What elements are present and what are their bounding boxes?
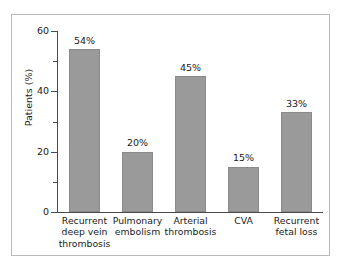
- y-axis-tick-major: [51, 91, 57, 92]
- x-axis-label-line: fetal loss: [262, 226, 331, 237]
- bar-value-label: 15%: [216, 153, 271, 163]
- y-axis-tick-minor: [53, 122, 57, 123]
- y-axis-tick-label: 20: [19, 147, 49, 157]
- x-axis-category-label: Recurrentfetal loss: [262, 215, 331, 238]
- y-axis-tick-major: [51, 152, 57, 153]
- bar[interactable]: [122, 152, 153, 212]
- bar-value-label: 20%: [110, 138, 165, 148]
- bar-slot: 45%: [175, 31, 206, 212]
- y-axis-tick-label: 60: [19, 26, 49, 36]
- y-axis-tick-labels: 0204060: [12, 15, 49, 255]
- y-axis-tick-major: [51, 31, 57, 32]
- bar[interactable]: [69, 49, 100, 212]
- bar-slot: 33%: [281, 31, 312, 212]
- bar-value-label: 45%: [163, 63, 218, 73]
- y-axis-tick-major: [51, 212, 57, 213]
- bar-series: 54%20%45%15%33%: [58, 31, 323, 212]
- bar-value-label: 33%: [269, 99, 324, 109]
- bar-slot: 20%: [122, 31, 153, 212]
- y-axis-tick-label: 40: [19, 86, 49, 96]
- figure-frame: Patients (%) 0204060 54%20%45%15%33% Rec…: [11, 14, 330, 256]
- bar-slot: 54%: [69, 31, 100, 212]
- bar[interactable]: [281, 112, 312, 212]
- x-axis-category-labels: Recurrentdeep veinthrombosisPulmonaryemb…: [58, 215, 323, 261]
- x-axis-label-line: Recurrent: [262, 215, 331, 226]
- bar-slot: 15%: [228, 31, 259, 212]
- x-axis-label-line: thrombosis: [156, 226, 225, 237]
- bar[interactable]: [228, 167, 259, 212]
- y-axis-tick-minor: [53, 61, 57, 62]
- x-axis-label-line: thrombosis: [50, 238, 119, 249]
- y-axis-tick-label: 0: [19, 207, 49, 217]
- plot-area: Patients (%) 0204060 54%20%45%15%33% Rec…: [12, 15, 329, 255]
- bar-value-label: 54%: [57, 36, 112, 46]
- y-axis-tick-minor: [53, 182, 57, 183]
- bar[interactable]: [175, 76, 206, 212]
- x-axis-line: [57, 212, 323, 213]
